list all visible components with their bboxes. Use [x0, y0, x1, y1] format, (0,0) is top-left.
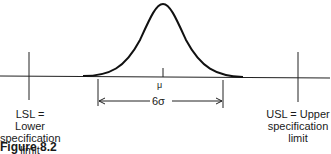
mean-label: μ	[157, 79, 162, 91]
lsl-label-line1: LSL = Lower	[0, 108, 60, 132]
usl-label-line1: USL = Upper	[265, 108, 331, 120]
usl-label-line3: limit	[265, 132, 331, 144]
six-sigma-label: 6σ	[152, 95, 165, 107]
figure-caption: Figure 8.2	[0, 140, 57, 154]
normal-curve	[83, 4, 243, 77]
usl-label-line2: specification	[265, 120, 331, 132]
usl-label: USL = Upper specification limit	[265, 108, 331, 144]
axis-line	[0, 76, 330, 78]
